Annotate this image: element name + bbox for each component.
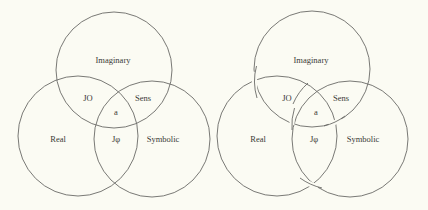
center-a-label: a bbox=[314, 108, 318, 117]
j-phi-label: Jφ bbox=[112, 135, 120, 144]
real-ring bbox=[217, 76, 337, 196]
left-venn-diagram bbox=[18, 12, 210, 197]
symbolic-label: Symbolic bbox=[347, 135, 380, 144]
symbolic-label: Symbolic bbox=[147, 135, 180, 144]
imaginary-label: Imaginary bbox=[96, 56, 131, 65]
right-borromean-diagram bbox=[217, 11, 408, 197]
jo-label: JO bbox=[282, 94, 291, 103]
j-phi-label: Jφ bbox=[310, 135, 318, 144]
jo-label: JO bbox=[83, 94, 92, 103]
sens-label: Sens bbox=[135, 94, 151, 103]
real-label: Real bbox=[250, 135, 266, 144]
center-a-label: a bbox=[114, 108, 118, 117]
crossing-gap bbox=[296, 86, 305, 99]
real-label: Real bbox=[50, 135, 66, 144]
sens-label: Sens bbox=[333, 94, 349, 103]
imaginary-label: Imaginary bbox=[294, 56, 329, 65]
imaginary-ring bbox=[254, 11, 370, 127]
diagram-canvas bbox=[0, 0, 428, 210]
